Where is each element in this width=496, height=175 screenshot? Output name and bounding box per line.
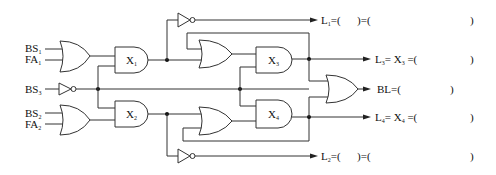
not-gate-x1 bbox=[178, 13, 195, 27]
logic-circuit-diagram: BS1 FA1 BS3 BS2 FA2 X1 X2 bbox=[0, 0, 496, 175]
or-gate-3 bbox=[199, 40, 232, 68]
output-close-l2: ) bbox=[470, 150, 474, 163]
arrow-icon bbox=[310, 18, 318, 23]
output-close-l1: ) bbox=[470, 14, 474, 27]
output-close-l3: ) bbox=[470, 53, 474, 66]
output-close-l4: ) bbox=[470, 111, 474, 124]
not-gate-x2 bbox=[178, 149, 195, 163]
output-label-bl: BL=( bbox=[377, 83, 401, 96]
output-label-l3: L3= X3 =( bbox=[375, 53, 418, 66]
arrow-icon bbox=[363, 57, 371, 62]
output-label-l2: L2=( )=( bbox=[321, 150, 371, 163]
output-close-bl: ) bbox=[450, 83, 454, 96]
input-label-bs3: BS3 bbox=[25, 83, 41, 96]
arrow-icon bbox=[363, 115, 371, 120]
or-gate-bl bbox=[326, 75, 358, 103]
or-gate-2 bbox=[60, 105, 90, 135]
arrow-icon bbox=[310, 154, 318, 159]
or-gate-1 bbox=[60, 41, 90, 72]
output-label-l4: L4= X4 =( bbox=[375, 111, 418, 124]
not-gate-bs3 bbox=[59, 83, 76, 95]
or-gate-4 bbox=[199, 107, 232, 135]
arrow-icon bbox=[363, 87, 371, 92]
output-label-l1: L1=( )=( bbox=[321, 14, 371, 27]
